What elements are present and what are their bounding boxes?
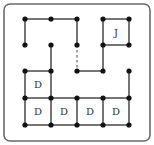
grid-dot	[48, 95, 53, 100]
grid-dot	[100, 95, 105, 100]
grid-dot	[48, 68, 53, 73]
grid-dot	[100, 68, 105, 73]
grid-dot	[48, 42, 53, 47]
grid-dot	[74, 68, 79, 73]
grid-dot	[126, 122, 131, 127]
grid-dot	[126, 95, 131, 100]
grid-dot	[126, 68, 131, 73]
cell-label: D	[86, 106, 94, 117]
grid-dot	[74, 122, 79, 127]
grid-dot	[22, 16, 27, 21]
grid-dot	[74, 16, 79, 21]
cell-label: D	[60, 106, 68, 117]
grid-dot	[22, 68, 27, 73]
dot-grid-puzzle: JDDDDD	[0, 0, 154, 145]
cell-label: D	[34, 79, 42, 90]
grid-dot	[100, 42, 105, 47]
grid-dot	[22, 122, 27, 127]
grid-dot	[100, 122, 105, 127]
cell-label: J	[113, 27, 118, 38]
grid-dot	[22, 42, 27, 47]
grid-dot	[74, 42, 79, 47]
grid-dot	[126, 16, 131, 21]
puzzle-diagram: JDDDDD	[0, 0, 154, 145]
grid-dot	[126, 42, 131, 47]
cell-label: D	[34, 106, 42, 117]
grid-dot	[22, 95, 27, 100]
grid-dot	[48, 16, 53, 21]
cell-label: D	[112, 106, 120, 117]
grid-dot	[48, 122, 53, 127]
grid-dot	[100, 16, 105, 21]
grid-dot	[74, 95, 79, 100]
